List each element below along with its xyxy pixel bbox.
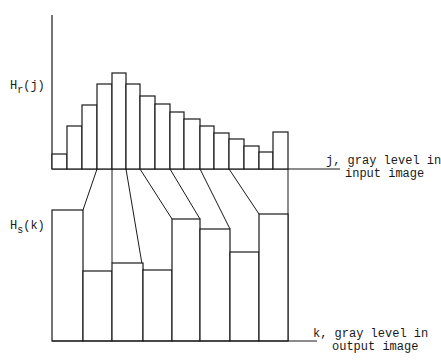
input-histogram-bar <box>214 133 229 169</box>
mapping-line <box>170 169 200 219</box>
output-histogram-bar <box>200 229 230 341</box>
output-histogram-ylabel: Hs(k) <box>10 220 45 233</box>
input-histogram-bar <box>273 132 288 169</box>
input-histogram-bar <box>229 139 244 169</box>
input-histogram-bar <box>140 96 155 169</box>
output-histogram-bar <box>172 219 200 341</box>
input-histogram-bar <box>67 126 82 169</box>
input-histogram-bar <box>52 154 67 169</box>
mapping-line <box>83 169 97 210</box>
mapping-line <box>229 169 259 214</box>
mapping-line <box>140 169 172 219</box>
output-histogram-bar <box>230 252 259 341</box>
input-histogram-bar <box>170 112 184 169</box>
input-histogram-bar <box>244 146 259 169</box>
mapping-line <box>126 169 143 270</box>
output-histogram-bar <box>112 263 143 341</box>
input-histogram-bar <box>200 126 214 169</box>
output-histogram-xlabel: k, gray level inoutput image <box>313 328 428 354</box>
input-histogram-bar <box>155 104 170 169</box>
input-histogram-bars <box>52 73 288 169</box>
output-histogram-bar <box>52 210 83 341</box>
output-histogram-bar <box>143 270 172 341</box>
input-histogram-bar <box>126 84 140 169</box>
input-histogram-xlabel: j, gray level ininput image <box>326 155 441 181</box>
input-histogram-bar <box>184 119 200 169</box>
input-histogram-bar <box>259 152 273 169</box>
mapping-line <box>200 169 230 229</box>
output-histogram-bars <box>52 210 288 341</box>
output-histogram-bar <box>259 214 288 341</box>
output-histogram-bar <box>83 271 112 341</box>
input-histogram-bar <box>97 84 112 169</box>
input-histogram-bar <box>112 73 126 169</box>
input-histogram-bar <box>82 105 97 169</box>
input-histogram-ylabel: Hr(j) <box>10 80 45 93</box>
